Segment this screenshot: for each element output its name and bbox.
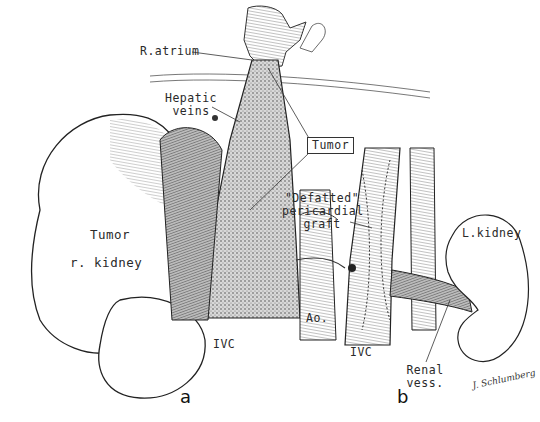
label-tumor-box: Tumor xyxy=(307,137,354,154)
label-ivc-b: IVC xyxy=(350,346,372,359)
label-ivc-a: IVC xyxy=(213,338,235,351)
illustration-drawing xyxy=(0,0,540,422)
panel-b-drawing xyxy=(345,148,528,362)
label-aorta: Ao. xyxy=(306,312,328,325)
medical-illustration: R.atrium Hepatic veins Tumor Tumor r. ki… xyxy=(0,0,540,422)
label-tumor-kidney-line1: Tumor xyxy=(90,228,130,241)
label-graft-line3: graft xyxy=(282,218,362,231)
label-r-atrium: R.atrium xyxy=(140,45,199,58)
panel-label-a: a xyxy=(180,386,191,407)
label-hepatic-veins-line2: veins xyxy=(165,105,217,118)
panel-label-b: b xyxy=(397,386,408,407)
label-l-kidney: L.kidney xyxy=(462,227,521,240)
label-tumor-kidney-line2: r. kidney xyxy=(70,256,142,269)
